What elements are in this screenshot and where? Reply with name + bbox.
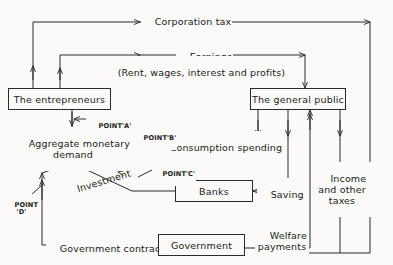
point-label-d-text: POINT 'D' (15, 201, 38, 217)
box-entrepreneurs-label: The entrepreneurs (14, 94, 106, 105)
label-income-and-other-taxes-text: Income and other taxes (318, 173, 366, 206)
label-income-and-other-taxes: Income and other taxes (313, 162, 371, 217)
box-government[interactable]: Government (158, 234, 245, 256)
point-label-b: POINT'B' (133, 127, 177, 150)
point-label-b-text: POINT'B' (144, 134, 177, 142)
label-saving: Saving (257, 178, 305, 211)
point-label-d: POINT 'D' (4, 194, 39, 224)
label-investment-text: Investment (76, 167, 133, 194)
label-corporation-tax-text: Corporation tax (155, 16, 232, 27)
point-label-c-text: POINT'C' (163, 170, 196, 178)
label-corporation-tax: Corporation tax (141, 5, 232, 38)
label-aggregate-monetary-demand-text: Aggregate monetary demand (29, 138, 130, 160)
box-general-public[interactable]: The general public (250, 88, 346, 110)
point-label-a: POINT'A' (88, 115, 132, 138)
box-general-public-label: The general public (252, 94, 344, 105)
label-earnings-detail-text: (Rent, wages, interest and profits) (118, 67, 285, 78)
box-banks-label: Banks (199, 186, 229, 197)
leader-point-c (138, 170, 152, 177)
label-welfare-payments-text: Welfare payments (258, 230, 307, 252)
point-label-c: POINT'C' (152, 163, 196, 186)
label-saving-text: Saving (271, 189, 304, 200)
box-entrepreneurs[interactable]: The entrepreneurs (8, 88, 111, 110)
flow-diagram-canvas: The entrepreneurs The general public Ban… (0, 0, 393, 265)
label-welfare-payments: Welfare payments (255, 219, 309, 263)
label-government-contracts-text: Government contracts (60, 243, 170, 254)
label-consumption-spending-text: Consumption spending (170, 142, 283, 153)
box-government-label: Government (171, 240, 232, 251)
point-label-a-text: POINT'A' (99, 122, 132, 130)
label-government-contracts: Government contracts (46, 232, 170, 265)
label-earnings-detail: (Rent, wages, interest and profits) (104, 56, 286, 89)
